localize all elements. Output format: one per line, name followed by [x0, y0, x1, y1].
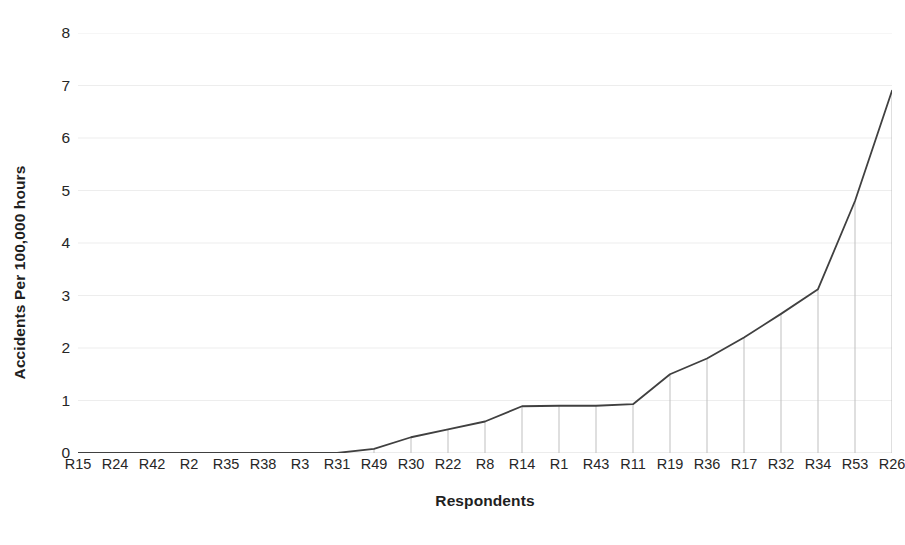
droplines — [374, 91, 892, 453]
x-tick-label: R19 — [657, 456, 684, 473]
x-tick-label: R26 — [879, 456, 905, 473]
x-axis-title: Respondents — [78, 492, 892, 510]
x-tick-label: R53 — [842, 456, 869, 473]
x-tick-label: R22 — [435, 456, 462, 473]
y-tick-label: 4 — [40, 235, 70, 251]
y-axis-title: Accidents Per 100,000 hours — [0, 0, 40, 545]
x-tick-label: R31 — [324, 456, 351, 473]
x-tick-label: R15 — [65, 456, 92, 473]
x-tick-label: R1 — [550, 456, 569, 473]
y-tick-label: 7 — [40, 78, 70, 94]
x-tick-label: R43 — [583, 456, 610, 473]
x-tick-label: R17 — [731, 456, 758, 473]
y-tick-label: 1 — [40, 393, 70, 409]
x-tick-label: R42 — [139, 456, 166, 473]
x-tick-label: R38 — [250, 456, 277, 473]
series-line — [78, 91, 892, 453]
data-line — [78, 91, 892, 453]
y-tick-label: 3 — [40, 288, 70, 304]
y-tick-label: 8 — [40, 25, 70, 41]
x-tick-label: R49 — [361, 456, 388, 473]
x-tick-label: R36 — [694, 456, 721, 473]
y-tick-label: 5 — [40, 183, 70, 199]
x-tick-label: R32 — [768, 456, 795, 473]
x-axis-tick-labels: R15R24R42R2R35R38R3R31R49R30R22R8R14R1R4… — [78, 456, 892, 482]
x-tick-label: R14 — [509, 456, 536, 473]
x-tick-label: R2 — [180, 456, 199, 473]
x-tick-label: R34 — [805, 456, 832, 473]
y-tick-label: 2 — [40, 340, 70, 356]
plot-svg — [78, 33, 892, 453]
x-tick-label: R3 — [291, 456, 310, 473]
x-tick-label: R35 — [213, 456, 240, 473]
gridlines — [78, 33, 892, 453]
x-tick-label: R24 — [102, 456, 129, 473]
x-tick-label: R8 — [476, 456, 495, 473]
x-tick-label: R11 — [620, 456, 646, 473]
plot-area — [78, 33, 892, 453]
y-axis-tick-labels: 012345678 — [38, 33, 70, 453]
y-tick-label: 6 — [40, 130, 70, 146]
x-tick-label: R30 — [398, 456, 425, 473]
